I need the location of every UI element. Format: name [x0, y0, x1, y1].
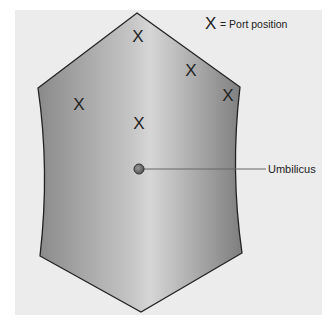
port-marker-top: X [132, 27, 143, 46]
port-marker-right: X [222, 86, 233, 105]
abdomen-port-diagram: X X X X X Umbilicus X = Port position [0, 0, 332, 324]
umbilicus-label: Umbilicus [268, 163, 316, 175]
legend-text: = Port position [220, 18, 288, 30]
port-marker-center: X [133, 114, 144, 133]
port-marker-upper-right: X [185, 61, 196, 80]
port-marker-left: X [73, 95, 84, 114]
legend-symbol: X [205, 14, 216, 33]
abdomen-outline [38, 13, 242, 312]
umbilicus-marker [134, 164, 144, 174]
legend: X = Port position [205, 14, 288, 33]
